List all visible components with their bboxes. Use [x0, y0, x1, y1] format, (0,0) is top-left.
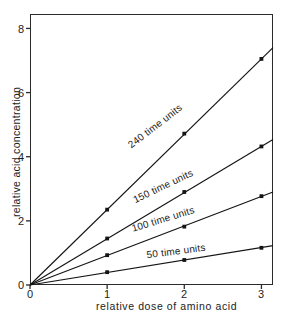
- x-axis-title: relative dose of amino acid: [96, 300, 237, 312]
- plot-frame: [30, 14, 273, 285]
- chart-figure: 8 6 4 2 0 0 1 2 3 relative acid concentr…: [0, 0, 284, 318]
- x-tick-label-3: 3: [253, 289, 269, 300]
- x-tick-label-2: 2: [176, 289, 192, 300]
- y-axis-title: relative acid concentration: [10, 52, 22, 252]
- x-tick-label-0: 0: [22, 289, 38, 300]
- y-tick-label-8: 8: [8, 24, 24, 35]
- x-tick-label-1: 1: [99, 289, 115, 300]
